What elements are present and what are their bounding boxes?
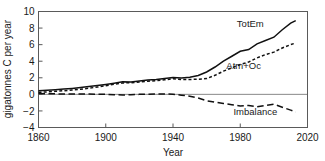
- y-tick-label-4: 4: [29, 56, 35, 67]
- y-tick-label-8: 8: [29, 23, 35, 34]
- series-annotations: TotEmAtm+OcImbalance: [226, 18, 277, 116]
- x-axis-tick-labels: 18601900194019802020: [27, 132, 319, 143]
- x-tick-label-1860: 1860: [27, 132, 50, 143]
- y-axis-title: gigatonnes C per year: [2, 19, 13, 118]
- y-tick-label-2: 2: [29, 72, 35, 83]
- y-tick-label-0: 0: [29, 89, 35, 100]
- x-tick-label-1980: 1980: [229, 132, 252, 143]
- x-tick-label-1940: 1940: [162, 132, 185, 143]
- series-line-totem: [39, 21, 296, 91]
- x-axis-ticks: [106, 124, 241, 128]
- y-axis-ticks: [39, 12, 43, 128]
- series-label-imbalance: Imbalance: [233, 106, 277, 117]
- x-axis-title: Year: [163, 147, 184, 158]
- series-label-totem: TotEm: [237, 18, 264, 29]
- x-tick-label-2020: 2020: [296, 132, 319, 143]
- y-tick-label-6: 6: [29, 39, 35, 50]
- series-label-atm-oc: Atm+Oc: [226, 60, 261, 71]
- y-axis-tick-labels: −4−20246810: [23, 6, 35, 133]
- x-tick-label-1900: 1900: [95, 132, 118, 143]
- carbon-flux-chart: −4−20246810 18601900194019802020 TotEmAt…: [0, 0, 325, 161]
- y-tick-label--2: −2: [23, 106, 35, 117]
- y-tick-label-10: 10: [23, 6, 35, 17]
